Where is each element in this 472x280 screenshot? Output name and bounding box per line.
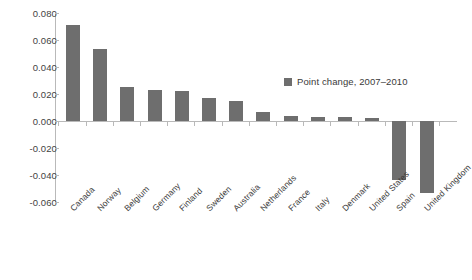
y-axis-tick-label-text: 0.020: [33, 88, 57, 99]
bar: [338, 117, 352, 121]
bar: [175, 91, 189, 121]
bar: [93, 49, 107, 121]
bar: [420, 121, 434, 193]
bar: [66, 25, 80, 121]
y-axis-tick-label-text: -0.040: [29, 169, 57, 180]
y-axis-tick-label-text: 0.080: [33, 7, 57, 18]
bar: [284, 116, 298, 121]
y-axis-tick-label-text: 0.060: [33, 34, 57, 45]
y-axis-tick-label-text: 0.040: [33, 61, 57, 72]
bar: [202, 98, 216, 121]
bar: [365, 118, 379, 121]
y-axis-tick-mark: [55, 202, 59, 203]
legend: Point change, 2007–2010: [284, 76, 408, 87]
y-axis-tick-label-text: -0.020: [29, 142, 57, 153]
bar: [229, 101, 243, 121]
y-axis-tick-label-text: -0.060: [29, 196, 57, 207]
plot-area: [57, 13, 457, 202]
legend-label: Point change, 2007–2010: [297, 76, 408, 87]
bar: [120, 87, 134, 121]
y-axis-tick-label-text: 0.000: [33, 115, 57, 126]
legend-swatch-point-change: [284, 78, 292, 86]
bar: [311, 117, 325, 121]
bar: [256, 112, 270, 121]
bar: [148, 90, 162, 121]
